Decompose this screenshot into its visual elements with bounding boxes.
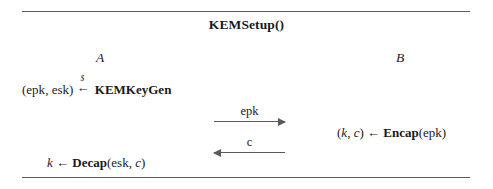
keygen-algorithm: KEMKeyGen (95, 82, 172, 97)
protocol-title: KEMSetup() (0, 17, 493, 33)
encap-algorithm: Encap (383, 125, 418, 140)
encap-arg: epk (423, 125, 442, 140)
arrow-shaft (214, 152, 285, 153)
random-dollar-superscript: $ (81, 75, 85, 83)
keygen-output-sk: esk (52, 82, 69, 97)
keygen-output-pk: epk (26, 82, 45, 97)
message-arrow-ciphertext: c (214, 131, 285, 157)
step-decap: k ← Decap(esk, c) (47, 156, 145, 169)
decap-arg-sk: esk (111, 155, 128, 170)
top-horizontal-rule (22, 11, 470, 12)
step-keygen: (epk, esk) ←$ KEMKeyGen (22, 81, 171, 96)
bottom-horizontal-rule (22, 177, 470, 178)
message-arrow-epk: epk (214, 100, 285, 126)
arrow-head-right-icon (278, 118, 286, 126)
encap-assign-arrow-icon: ← (367, 125, 380, 140)
step-encap: (k, c) ← Encap(epk) (337, 126, 446, 139)
party-label-b: B (380, 50, 420, 66)
decap-algorithm: Decap (72, 155, 107, 170)
message-label-epk: epk (214, 104, 285, 119)
arrow-head-left-icon (213, 149, 221, 157)
decap-output-key: k (47, 155, 53, 170)
random-assignment-icon: ←$ (77, 81, 92, 94)
kem-protocol-diagram: KEMSetup() A B (epk, esk) ←$ KEMKeyGen e… (0, 0, 493, 189)
protocol-title-function: KEMSetup (209, 17, 275, 32)
party-label-a: A (80, 50, 120, 66)
encap-arg-close: ) (442, 125, 446, 140)
message-label-ciphertext: c (214, 135, 285, 150)
encap-output-close: ) (359, 125, 363, 140)
protocol-title-parens: () (275, 17, 284, 32)
arrow-shaft (214, 121, 285, 122)
keygen-output-close: ) (69, 82, 73, 97)
decap-arg-close: ) (141, 155, 145, 170)
decap-assign-arrow-icon: ← (56, 155, 69, 170)
